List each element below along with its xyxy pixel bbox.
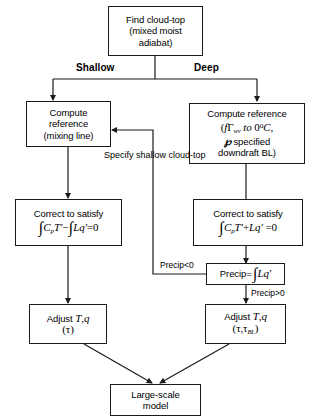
node-large-scale-model: Large-scale model <box>110 384 201 416</box>
precip-formula: ∫Lq′ <box>253 268 272 279</box>
edge-adjust-deep-to-model <box>160 344 229 383</box>
node-line: Compute reference <box>207 108 287 119</box>
node-line: Large-scale <box>131 389 180 400</box>
node-formula: ∫CpT′+Lq′ =0 <box>219 222 277 237</box>
node-formula-line-3: downdraft BL) <box>218 147 276 158</box>
node-line: Find cloud-top <box>126 14 185 25</box>
node-line: (mixing line) <box>44 130 94 141</box>
edge-label-precip-positive: Precip>0 <box>251 288 285 299</box>
branch-label-shallow: Shallow <box>76 62 114 73</box>
node-formula: ∫CpT′−∫Lq′=0 <box>39 222 99 237</box>
node-formula-line-2: ℘ specified <box>224 136 270 147</box>
edge-label-precip-negative: Precip<0 <box>160 260 194 271</box>
precip-label: Precip= <box>220 268 252 279</box>
node-line: model <box>143 400 168 411</box>
node-line: Compute <box>50 107 88 118</box>
node-compute-reference-shallow: Compute reference (mixing line) <box>26 101 111 147</box>
flowchart-diagram: Find cloud-top (mixed moist adiabat) Sha… <box>0 0 311 420</box>
node-precip: Precip= ∫Lq′ <box>206 263 285 285</box>
node-line-tau: (τ,τBL) <box>233 323 259 337</box>
node-find-cloud-top: Find cloud-top (mixed moist adiabat) <box>108 6 203 56</box>
node-line: Correct to satisfy <box>34 208 103 219</box>
edge-label-line: Specify <box>104 150 134 160</box>
node-compute-reference-deep: Compute reference (fΓwv to 0oC, ℘ specif… <box>189 103 305 164</box>
edge-label-line: shallow <box>136 150 166 160</box>
edge-label-line: cloud-top <box>169 150 206 160</box>
edge-label-specify-shallow-cloud-top: Specify shallow cloud-top <box>104 150 154 161</box>
node-correct-to-satisfy-shallow: Correct to satisfy ∫CpT′−∫Lq′=0 <box>15 199 122 246</box>
edge-adjust-shallow-to-model <box>84 344 152 383</box>
node-line: reference <box>49 118 88 129</box>
node-line: adiabat) <box>139 37 173 48</box>
node-line: Adjust T,q <box>224 311 267 322</box>
node-line: (mixed moist <box>129 25 182 36</box>
node-adjust-deep: Adjust T,q (τ,τBL) <box>205 304 286 344</box>
node-adjust-shallow: Adjust T,q (τ) <box>29 304 107 344</box>
node-line-tau: (τ) <box>62 324 73 335</box>
node-formula-line-1: (fΓwv to 0oC, <box>221 120 273 136</box>
node-line: Correct to satisfy <box>213 208 282 219</box>
branch-label-deep: Deep <box>194 62 219 73</box>
node-correct-to-satisfy-deep: Correct to satisfy ∫CpT′+Lq′ =0 <box>193 199 303 246</box>
